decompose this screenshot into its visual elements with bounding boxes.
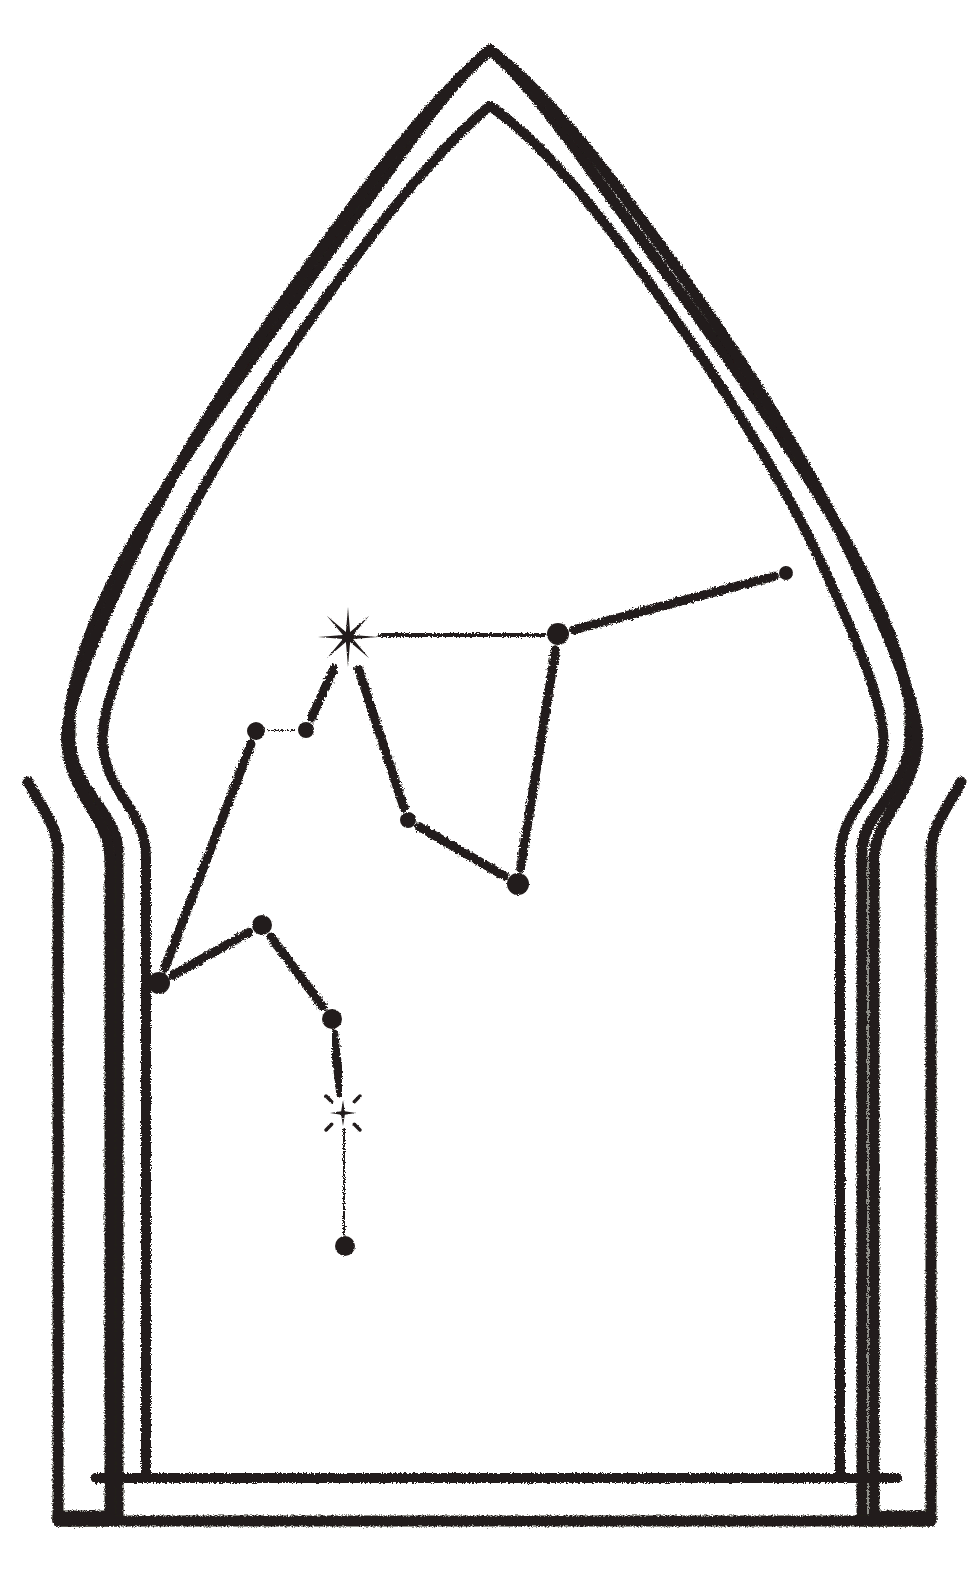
node-far-right [779,566,793,580]
node-lower-mid [252,915,272,935]
star-dot [547,623,569,645]
star-dot [507,873,529,895]
star-bright-main [318,607,378,667]
star-dot [335,1236,355,1256]
node-tail-bottom [335,1236,355,1256]
node-pair-left [247,722,265,740]
star-dot [148,972,170,994]
constellation-arch-illustration [0,0,967,1582]
star-dot [779,566,793,580]
edge-n11-n12 [343,1133,344,1231]
edge-n3-n2 [382,634,542,636]
node-lower-left-tip [148,972,170,994]
star-dot [252,915,272,935]
star-dot [322,1009,342,1029]
star-dot [247,722,265,740]
starburst-8-point-icon [318,607,378,667]
node-mid-small [400,812,416,828]
star-dot [400,812,416,828]
canvas-root: Constellation in Ogee Arch double-outlin… [0,0,967,1582]
node-bowl-bottom [507,873,529,895]
star-small-twinkle [326,1096,360,1130]
node-bowl-top-right [547,623,569,645]
node-tail-upper [322,1009,342,1029]
node-pair-right [298,722,314,738]
star-dot [298,722,314,738]
